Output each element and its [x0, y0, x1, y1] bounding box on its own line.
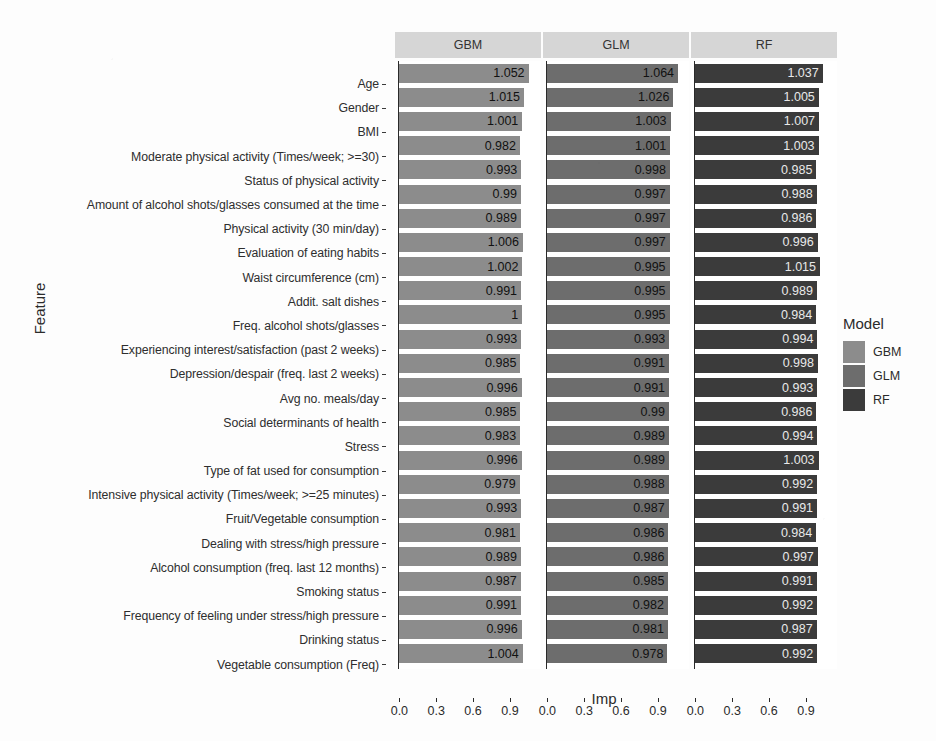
bar[interactable]: 0.989	[399, 209, 520, 228]
bar[interactable]: 0.993	[399, 330, 521, 349]
bar[interactable]: 0.99	[547, 402, 669, 421]
bar-row: 1.003	[547, 109, 689, 133]
bar-row: 0.992	[695, 593, 837, 617]
bar[interactable]: 0.993	[547, 330, 669, 349]
bar-row: 0.987	[547, 496, 689, 520]
bar[interactable]: 0.991	[547, 354, 669, 373]
bar[interactable]: 0.989	[547, 451, 668, 470]
bar[interactable]: 0.989	[547, 426, 668, 445]
bar[interactable]: 0.994	[695, 330, 817, 349]
bar[interactable]: 0.993	[399, 160, 521, 179]
bar[interactable]: 0.997	[547, 185, 669, 204]
bar[interactable]: 0.986	[547, 523, 668, 542]
bar[interactable]: 0.983	[399, 426, 520, 445]
bar[interactable]: 0.992	[695, 475, 817, 494]
bar[interactable]: 0.998	[547, 160, 670, 179]
bar[interactable]: 0.982	[399, 136, 520, 155]
bar-row: 0.979	[399, 472, 541, 496]
bar[interactable]: 0.985	[399, 402, 520, 421]
bar[interactable]: 0.986	[695, 209, 816, 228]
bar[interactable]: 0.996	[399, 451, 521, 470]
bar[interactable]: 1.015	[695, 257, 820, 276]
bar[interactable]: 0.992	[695, 644, 817, 663]
bar[interactable]: 1.007	[695, 112, 819, 131]
bar[interactable]: 1.001	[547, 136, 670, 155]
bar[interactable]: 0.996	[399, 378, 521, 397]
bar[interactable]: 0.995	[547, 305, 669, 324]
bar[interactable]: 1.052	[399, 64, 528, 83]
bar[interactable]: 0.985	[547, 572, 668, 591]
bar[interactable]: 1.004	[399, 644, 522, 663]
bar-row: 1.001	[547, 134, 689, 158]
bar[interactable]: 1.003	[547, 112, 670, 131]
bar[interactable]: 0.997	[547, 233, 669, 252]
bar[interactable]: 0.988	[547, 475, 668, 494]
y-tick-label: Evaluation of eating habits	[0, 241, 390, 265]
y-tick-label-text: Status of physical activity	[244, 174, 379, 188]
bar-row: 0.991	[547, 375, 689, 399]
bar-value-label: 0.994	[782, 429, 813, 443]
bar[interactable]: 1.006	[399, 233, 523, 252]
bar-value-label: 0.992	[782, 598, 813, 612]
bar[interactable]: 1.037	[695, 64, 822, 83]
bar[interactable]: 0.984	[695, 523, 816, 542]
bar-value-label: 1.026	[638, 90, 669, 104]
legend-item-rf[interactable]: RF	[843, 389, 901, 411]
bar[interactable]: 0.978	[547, 644, 667, 663]
bar[interactable]: 0.993	[399, 499, 521, 518]
bar[interactable]: 1.002	[399, 257, 522, 276]
bar[interactable]: 0.979	[399, 475, 519, 494]
bar[interactable]: 1.005	[695, 88, 818, 107]
bar[interactable]: 0.984	[695, 305, 816, 324]
bar[interactable]: 0.987	[547, 499, 668, 518]
legend-swatch	[843, 389, 865, 411]
bar-value-label: 0.991	[634, 356, 665, 370]
y-tick-label-text: Age	[357, 77, 379, 91]
bar[interactable]: 0.992	[695, 596, 817, 615]
bar[interactable]: 0.997	[547, 209, 669, 228]
legend-item-gbm[interactable]: GBM	[843, 341, 901, 363]
bar[interactable]: 0.991	[547, 378, 669, 397]
bar[interactable]: 0.985	[399, 354, 520, 373]
bar-row: 0.997	[547, 230, 689, 254]
bar[interactable]: 0.991	[695, 499, 817, 518]
bar-value-label: 0.986	[781, 211, 812, 225]
bar[interactable]: 0.996	[695, 233, 817, 252]
bar[interactable]: 0.997	[695, 547, 817, 566]
bar[interactable]: 0.982	[547, 596, 668, 615]
bar[interactable]: 1.026	[547, 88, 673, 107]
bar[interactable]: 0.987	[399, 572, 520, 591]
bar-value-label: 0.989	[486, 211, 517, 225]
bar[interactable]: 0.993	[695, 378, 817, 397]
bar[interactable]: 1.015	[399, 88, 524, 107]
bar[interactable]: 0.985	[695, 160, 816, 179]
y-tick-label: Experiencing interest/satisfaction (past…	[0, 338, 390, 362]
bar[interactable]: 0.987	[695, 620, 816, 639]
bar[interactable]: 0.986	[547, 547, 668, 566]
bar[interactable]: 0.989	[695, 281, 816, 300]
bar[interactable]: 1.003	[695, 451, 818, 470]
bar[interactable]: 0.991	[695, 572, 817, 591]
bar[interactable]: 0.996	[399, 620, 521, 639]
bar[interactable]: 0.998	[695, 354, 818, 373]
legend-title: Model	[843, 315, 901, 332]
bar[interactable]: 0.994	[695, 426, 817, 445]
bar[interactable]: 0.989	[399, 547, 520, 566]
bar[interactable]: 0.995	[547, 257, 669, 276]
bar[interactable]: 0.99	[399, 185, 521, 204]
bar[interactable]: 1	[399, 305, 522, 324]
bar[interactable]: 1.001	[399, 112, 522, 131]
bar[interactable]: 0.995	[547, 281, 669, 300]
bar[interactable]: 0.988	[695, 185, 816, 204]
bar-value-label: 1.052	[493, 66, 524, 80]
y-tick-label: Avg no. meals/day	[0, 386, 390, 410]
bar[interactable]: 0.991	[399, 596, 521, 615]
y-tick-label-text: Smoking status	[296, 585, 379, 599]
bar[interactable]: 1.064	[547, 64, 678, 83]
bar[interactable]: 0.986	[695, 402, 816, 421]
bar[interactable]: 0.981	[547, 620, 667, 639]
bar[interactable]: 0.981	[399, 523, 519, 542]
bar[interactable]: 0.991	[399, 281, 521, 300]
legend-item-glm[interactable]: GLM	[843, 365, 901, 387]
bar[interactable]: 1.003	[695, 136, 818, 155]
